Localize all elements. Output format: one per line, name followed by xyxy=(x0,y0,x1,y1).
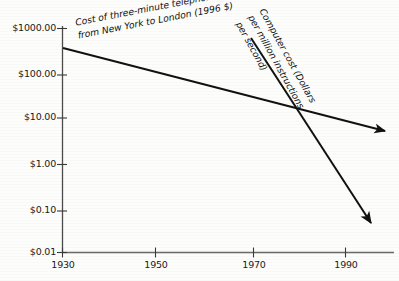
y-tick-label-100: $100.00 xyxy=(2,68,56,79)
y-tick-label-1000: $1000.00 xyxy=(2,22,56,33)
x-tick-label-1990: 1990 xyxy=(327,259,365,270)
y-tick-label-0-10: $0.10 xyxy=(2,204,56,215)
x-tick-label-1950: 1950 xyxy=(137,259,175,270)
chart-plot-area xyxy=(0,0,399,281)
y-tick-label-1: $1.00 xyxy=(2,158,56,169)
x-tick-label-1970: 1970 xyxy=(235,259,273,270)
series-line-telephone xyxy=(63,48,385,131)
y-tick-label-0-01: $0.01 xyxy=(2,246,56,257)
chart-figure: $1000.00 $100.00 $10.00 $1.00 $0.10 $0.0… xyxy=(0,0,399,281)
y-tick-label-10: $10.00 xyxy=(2,111,56,122)
x-tick-label-1930: 1930 xyxy=(44,259,82,270)
